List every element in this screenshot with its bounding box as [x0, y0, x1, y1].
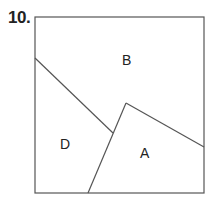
region-label-d: D	[60, 136, 70, 152]
region-label-a: A	[140, 145, 149, 161]
divider-b-d	[35, 58, 113, 133]
divider-a-left	[88, 103, 126, 193]
region-label-b: B	[122, 52, 131, 68]
outer-square	[35, 17, 204, 193]
divider-a-top	[126, 103, 204, 147]
geometry-figure	[0, 0, 216, 205]
